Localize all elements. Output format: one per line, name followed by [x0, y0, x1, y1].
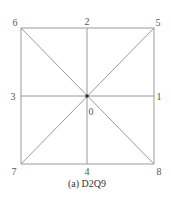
figure-caption: (a) D2Q9 — [68, 178, 106, 189]
node-label-1: 1 — [157, 92, 162, 102]
node-label-2: 2 — [85, 17, 90, 27]
node-label-6: 6 — [13, 18, 18, 28]
center-node-dot — [85, 94, 89, 98]
node-label-3: 3 — [11, 92, 16, 102]
node-label-5: 5 — [156, 18, 161, 28]
node-label-0: 0 — [89, 107, 94, 117]
node-label-8: 8 — [157, 167, 162, 177]
node-label-7: 7 — [12, 167, 17, 177]
node-label-4: 4 — [85, 167, 90, 177]
d2q9-lattice-diagram: 0 1 2 3 4 5 6 7 8 (a) D2Q9 — [0, 0, 171, 199]
